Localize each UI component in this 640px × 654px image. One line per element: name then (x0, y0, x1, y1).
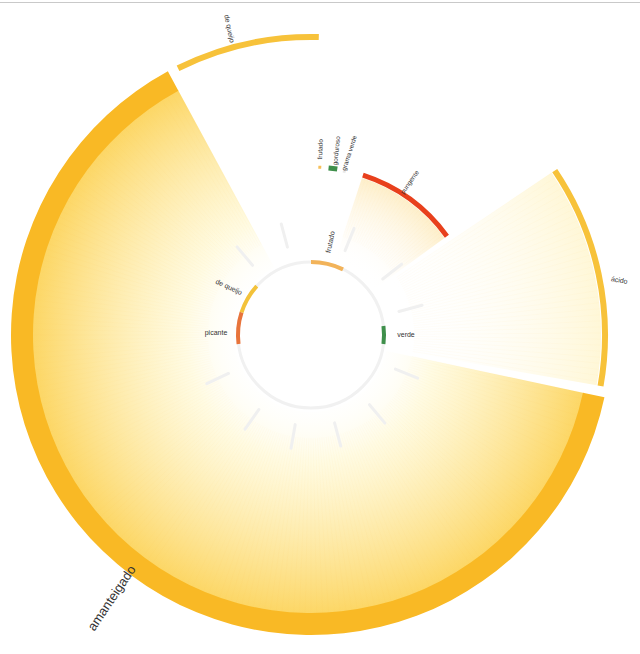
label-acido: ácido (611, 275, 629, 285)
outer-arc-de-queijo[interactable] (177, 34, 319, 71)
inner-arc-verde[interactable] (383, 326, 384, 344)
label-frutado: frutado (324, 230, 335, 253)
label-picante: picante (205, 329, 228, 337)
label-frutado: frutado (316, 139, 324, 160)
inner-arc-frutado[interactable] (311, 262, 343, 269)
flavor-wheel: frutadoverdepicantede queijofrutadogordu… (0, 0, 640, 654)
label-verde: verde (397, 331, 415, 338)
label-gorduroso: gorduroso (331, 135, 342, 165)
label-amanteigado: amanteigado (84, 563, 138, 634)
inner-spoke (281, 224, 287, 247)
label-grama-verde: grama verde (340, 134, 359, 172)
inner-arc-picante[interactable] (238, 312, 242, 343)
inner-ring-outline (238, 262, 384, 408)
mid-arc-gorduroso[interactable] (329, 168, 338, 169)
label-de-queijo: de queijo (222, 14, 236, 44)
label-pungente: pungente (399, 168, 421, 195)
